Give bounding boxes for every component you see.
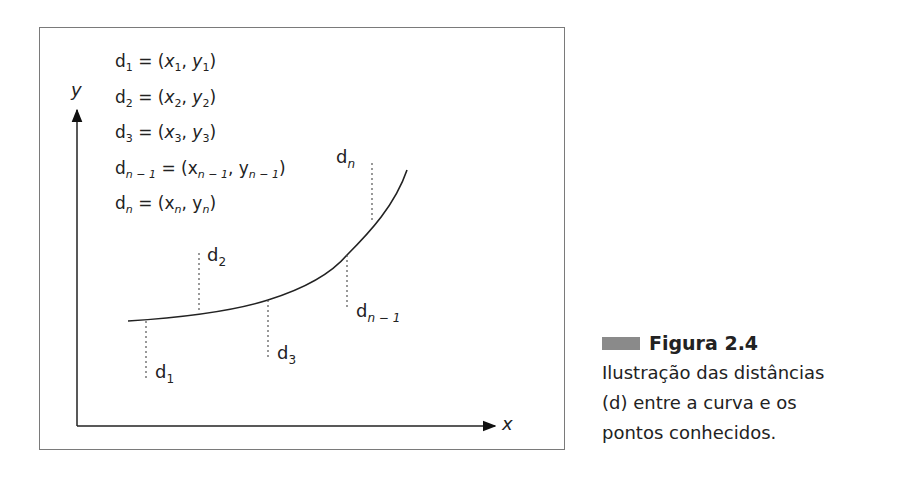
- figure-number-label: Figura 2.4: [649, 332, 758, 354]
- caption-line: pontos conhecidos.: [602, 418, 892, 448]
- caption-text: Ilustração das distâncias (d) entre a cu…: [602, 358, 892, 448]
- caption-swatch-icon: [602, 337, 640, 350]
- equation-d2: d2 = (x2, y2): [115, 87, 216, 107]
- equation-dn: dn = (xn, yn): [115, 193, 216, 213]
- equation-dn-1: dn − 1 = (xn − 1, yn − 1): [115, 158, 286, 178]
- distance-label-dn-1: dn − 1: [356, 300, 400, 321]
- caption-line: Ilustração das distâncias: [602, 358, 892, 388]
- equation-d3: d3 = (x3, y3): [115, 122, 216, 142]
- distance-label-d1: d1: [155, 361, 174, 382]
- figure-number: Figura 2.4: [602, 330, 892, 356]
- equation-d1: d1 = (x1, y1): [115, 51, 216, 71]
- distance-label-d2: d2: [207, 244, 226, 265]
- x-axis-label: x: [502, 413, 513, 434]
- distance-label-dn: dn: [336, 146, 355, 167]
- distance-label-d3: d3: [277, 342, 296, 363]
- figure-caption: Figura 2.4 Ilustração das distâncias (d)…: [602, 330, 892, 448]
- y-axis-label: y: [71, 79, 82, 100]
- caption-line: (d) entre a curva e os: [602, 388, 892, 418]
